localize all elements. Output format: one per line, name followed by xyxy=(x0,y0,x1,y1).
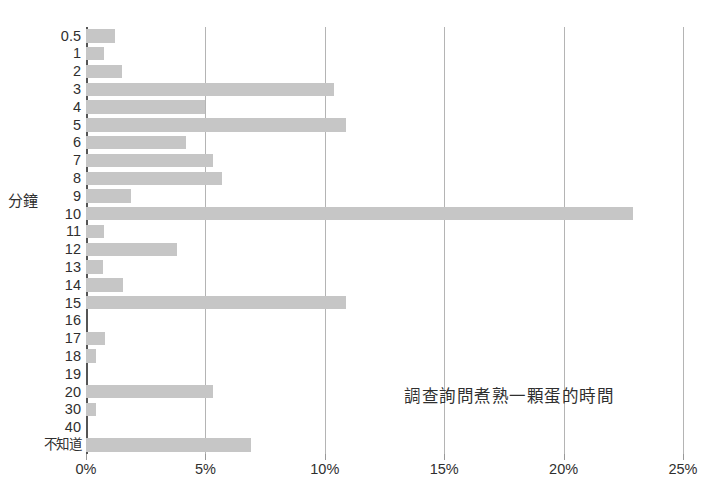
gridline-25 xyxy=(683,27,684,454)
bar-row xyxy=(86,329,683,347)
bar-row xyxy=(86,418,683,436)
y-tick-label: 10 xyxy=(1,207,81,222)
y-tick-label: 16 xyxy=(1,313,81,328)
x-tick-mark xyxy=(564,454,565,460)
y-tick-label: 0.5 xyxy=(1,29,81,44)
y-tick-label: 19 xyxy=(1,367,81,382)
x-tick-label: 20% xyxy=(549,462,578,477)
bar xyxy=(86,118,346,131)
bar xyxy=(86,403,96,416)
bar-row xyxy=(86,294,683,312)
bar xyxy=(86,207,633,220)
bar xyxy=(86,296,346,309)
x-tick-label: 0% xyxy=(76,462,97,477)
y-tick-label: 15 xyxy=(1,296,81,311)
bar-row xyxy=(86,205,683,223)
bar-row xyxy=(86,241,683,259)
x-tick-mark xyxy=(325,454,326,460)
y-tick-label: 7 xyxy=(1,153,81,168)
y-tick-label: 30 xyxy=(1,402,81,417)
x-tick-mark xyxy=(205,454,206,460)
x-tick-label: 5% xyxy=(195,462,216,477)
y-tick-label: 9 xyxy=(1,189,81,204)
x-tick-label: 15% xyxy=(430,462,459,477)
y-tick-label: 11 xyxy=(1,224,81,239)
bar-row xyxy=(86,27,683,45)
y-tick-label: 4 xyxy=(1,100,81,115)
y-tick-label: 1 xyxy=(1,46,81,61)
bar xyxy=(86,349,96,362)
x-tick-label: 10% xyxy=(310,462,339,477)
bar-row xyxy=(86,80,683,98)
bar xyxy=(86,260,103,273)
x-tick-label: 25% xyxy=(668,462,697,477)
y-tick-label: 8 xyxy=(1,171,81,186)
bar xyxy=(86,278,123,291)
bar-row xyxy=(86,134,683,152)
bar xyxy=(86,154,213,167)
x-tick-mark xyxy=(444,454,445,460)
bar xyxy=(86,100,205,113)
bar-row xyxy=(86,436,683,454)
bar-row xyxy=(86,223,683,241)
bar-row xyxy=(86,116,683,134)
bar xyxy=(86,189,131,202)
bar-row xyxy=(86,45,683,63)
y-tick-label: 12 xyxy=(1,242,81,257)
bar xyxy=(86,438,251,451)
bar-row xyxy=(86,258,683,276)
y-tick-label: 3 xyxy=(1,82,81,97)
y-axis-tick-labels: 0.512345678910111213141516171819203040不知… xyxy=(0,27,81,454)
bar-row xyxy=(86,312,683,330)
y-tick-label: 40 xyxy=(1,420,81,435)
bar-row xyxy=(86,276,683,294)
y-tick-label: 18 xyxy=(1,349,81,364)
y-tick-label: 13 xyxy=(1,260,81,275)
y-tick-label: 17 xyxy=(1,331,81,346)
bar-row xyxy=(86,169,683,187)
x-tick-mark xyxy=(86,454,87,460)
bar xyxy=(86,225,104,238)
bar-chart: 分鐘 0.51234567891011121314151617181920304… xyxy=(0,0,727,500)
y-tick-label: 2 xyxy=(1,64,81,79)
bar xyxy=(86,332,105,345)
bar xyxy=(86,65,122,78)
bar-row xyxy=(86,98,683,116)
bar-row xyxy=(86,365,683,383)
y-tick-label: 不知道 xyxy=(1,438,81,453)
bar-row xyxy=(86,347,683,365)
bar xyxy=(86,385,213,398)
y-tick-label: 20 xyxy=(1,385,81,400)
bar-row xyxy=(86,152,683,170)
bar-row xyxy=(86,63,683,81)
y-tick-label: 5 xyxy=(1,118,81,133)
y-tick-label: 14 xyxy=(1,278,81,293)
bar xyxy=(86,243,177,256)
bar xyxy=(86,47,104,60)
bar xyxy=(86,136,186,149)
chart-annotation: 調查詢問煮熟一顆蛋的時間 xyxy=(404,386,614,406)
bar xyxy=(86,83,334,96)
bar xyxy=(86,29,115,42)
bar xyxy=(86,172,222,185)
bar-row xyxy=(86,187,683,205)
x-tick-mark xyxy=(683,454,684,460)
y-tick-label: 6 xyxy=(1,135,81,150)
